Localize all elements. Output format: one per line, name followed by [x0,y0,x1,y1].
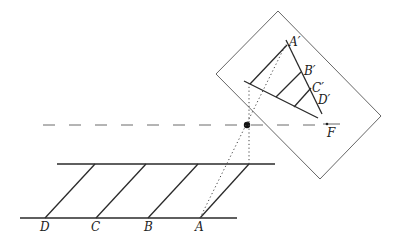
image-transversal-c [294,88,311,107]
transversal-b [148,164,198,218]
label-b-prime: B′ [303,64,316,78]
projection-ray-a [200,44,286,218]
transversal-c [96,164,146,218]
projection-diagram: D C B A A′ B′ C′ D′ F [0,0,397,241]
label-d: D [39,220,50,234]
image-transversal-b [276,72,301,97]
focal-point-dot [326,123,329,126]
label-f: F [326,126,336,140]
transversal-d [45,164,95,218]
label-a: A [194,220,204,234]
label-d-prime: D′ [317,93,331,107]
label-b: B [143,220,153,234]
label-c: C [91,220,100,234]
transversal-a [200,164,249,218]
image-line-base [244,81,318,118]
label-a-prime: A′ [288,35,301,49]
image-transversal-a [250,45,287,84]
